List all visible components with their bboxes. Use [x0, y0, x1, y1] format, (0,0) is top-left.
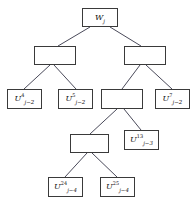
edge-internal-right-to-u7: [146, 65, 172, 89]
edge-middle-to-u13: [124, 109, 141, 130]
edge-root-to-internal-left: [58, 27, 90, 46]
edge-root-to-internal-right: [110, 27, 141, 46]
edge-lower-to-u24: [65, 153, 87, 177]
node-internal-right[interactable]: [124, 46, 166, 65]
node-internal-lower[interactable]: [70, 134, 109, 153]
node-u7-j-minus-2-label: U7j−2: [163, 95, 183, 103]
edge-internal-left-to-u5: [54, 65, 76, 89]
node-u24-j-minus-4[interactable]: U24j−4: [48, 177, 83, 197]
node-u4-j-minus-2[interactable]: U4j−2: [7, 89, 42, 109]
node-u13-j-minus-3-label: U13j−3: [130, 136, 153, 144]
node-u25-j-minus-4-label: U25j−4: [106, 183, 129, 191]
node-u24-j-minus-4-label: U24j−4: [54, 183, 77, 191]
edge-middle-to-lower: [90, 109, 117, 134]
node-u25-j-minus-4[interactable]: U25j−4: [100, 177, 135, 197]
node-w-j[interactable]: Wj: [82, 8, 118, 27]
edge-internal-right-to-middle: [122, 65, 140, 89]
edge-internal-left-to-u4: [24, 65, 50, 89]
edge-lower-to-u25: [92, 153, 117, 177]
node-u13-j-minus-3[interactable]: U13j−3: [124, 130, 159, 150]
node-u7-j-minus-2[interactable]: U7j−2: [155, 89, 190, 109]
tree-diagram: WjU4j−2U5j−2U7j−2U13j−3U24j−4U25j−4: [0, 0, 193, 202]
node-u5-j-minus-2[interactable]: U5j−2: [58, 89, 93, 109]
node-w-j-label: Wj: [95, 14, 105, 22]
node-internal-middle[interactable]: [101, 89, 143, 109]
node-u5-j-minus-2-label: U5j−2: [66, 95, 86, 103]
node-u4-j-minus-2-label: U4j−2: [15, 95, 35, 103]
node-internal-left[interactable]: [34, 46, 76, 65]
